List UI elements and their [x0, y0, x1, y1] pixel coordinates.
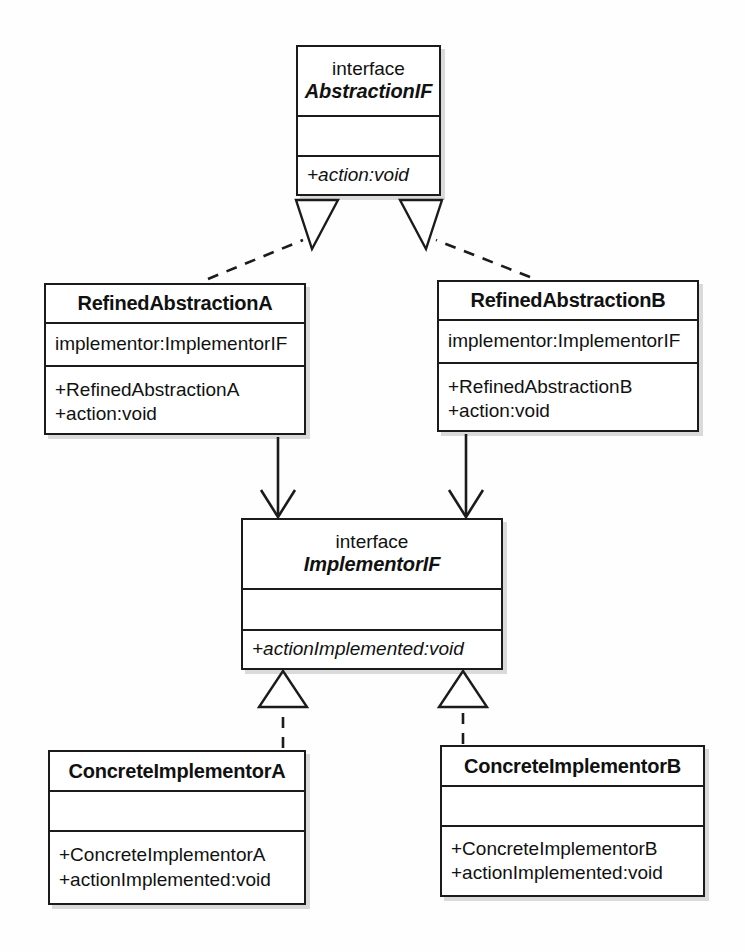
class-name-compartment: ConcreteImplementorA: [50, 752, 304, 790]
class-name-compartment: interface AbstractionIF: [298, 47, 439, 115]
class-title: RefinedAbstractionB: [470, 289, 665, 312]
operation-item: +actionImplemented:void: [451, 861, 663, 885]
attributes-compartment: implementor:ImplementorIF: [439, 319, 697, 362]
class-box-concrete-implementor-a[interactable]: ConcreteImplementorA +ConcreteImplemento…: [48, 750, 306, 905]
operation-item: +ConcreteImplementorB: [451, 837, 657, 861]
class-title: ConcreteImplementorA: [68, 760, 285, 783]
class-box-concrete-implementor-b[interactable]: ConcreteImplementorB +ConcreteImplemento…: [440, 745, 705, 897]
class-title: AbstractionIF: [305, 80, 433, 103]
operation-item: +RefinedAbstractionB: [448, 375, 632, 399]
class-title: ImplementorIF: [304, 553, 441, 576]
attributes-compartment: [442, 785, 703, 825]
operation-item: +actionImplemented:void: [252, 637, 464, 661]
class-name-compartment: RefinedAbstractionB: [439, 282, 697, 319]
realization-concreteB-to-implementorIF: [439, 671, 487, 744]
operation-item: +RefinedAbstractionA: [55, 378, 239, 402]
stereotype-label: interface: [336, 532, 409, 553]
uml-class-diagram: ImplementorIF : solid + open arrow --> I…: [0, 0, 745, 952]
realization-concreteA-to-implementorIF: [259, 671, 307, 748]
class-box-abstraction-if[interactable]: interface AbstractionIF +action:void: [296, 45, 441, 196]
attribute-item: implementor:ImplementorIF: [448, 329, 680, 353]
realization-refinedA-to-abstractionIF: [208, 200, 338, 279]
class-title: ConcreteImplementorB: [464, 755, 681, 778]
class-title: RefinedAbstractionA: [77, 292, 272, 315]
association-refinedA-to-implementorIF: [261, 437, 295, 517]
attributes-compartment: implementor:ImplementorIF: [46, 322, 304, 365]
operation-item: +ConcreteImplementorA: [59, 843, 265, 867]
operations-compartment: +RefinedAbstractionB +action:void: [439, 362, 697, 434]
stereotype-label: interface: [332, 59, 405, 80]
attributes-compartment: [50, 790, 304, 830]
operations-compartment: +ConcreteImplementorA +actionImplemented…: [50, 830, 304, 903]
operation-item: +actionImplemented:void: [59, 868, 271, 892]
class-box-refined-abstraction-b[interactable]: RefinedAbstractionB implementor:Implemen…: [437, 280, 699, 432]
class-box-implementor-if[interactable]: interface ImplementorIF +actionImplement…: [241, 518, 503, 670]
operations-compartment: +ConcreteImplementorB +actionImplemented…: [442, 825, 703, 895]
operations-compartment: +actionImplemented:void: [243, 629, 501, 668]
operation-item: +action:void: [448, 399, 550, 423]
operations-compartment: +action:void: [298, 155, 439, 194]
class-name-compartment: RefinedAbstractionA: [46, 285, 304, 322]
attributes-compartment: [298, 115, 439, 155]
operation-item: +action:void: [307, 163, 409, 187]
class-box-refined-abstraction-a[interactable]: RefinedAbstractionA implementor:Implemen…: [44, 283, 306, 435]
class-name-compartment: interface ImplementorIF: [243, 520, 501, 588]
attributes-compartment: [243, 588, 501, 629]
realization-refinedB-to-abstractionIF: [400, 200, 530, 277]
operation-item: +action:void: [55, 402, 157, 426]
attribute-item: implementor:ImplementorIF: [55, 332, 287, 356]
association-refinedB-to-implementorIF: [449, 434, 483, 517]
class-name-compartment: ConcreteImplementorB: [442, 747, 703, 785]
operations-compartment: +RefinedAbstractionA +action:void: [46, 365, 304, 437]
